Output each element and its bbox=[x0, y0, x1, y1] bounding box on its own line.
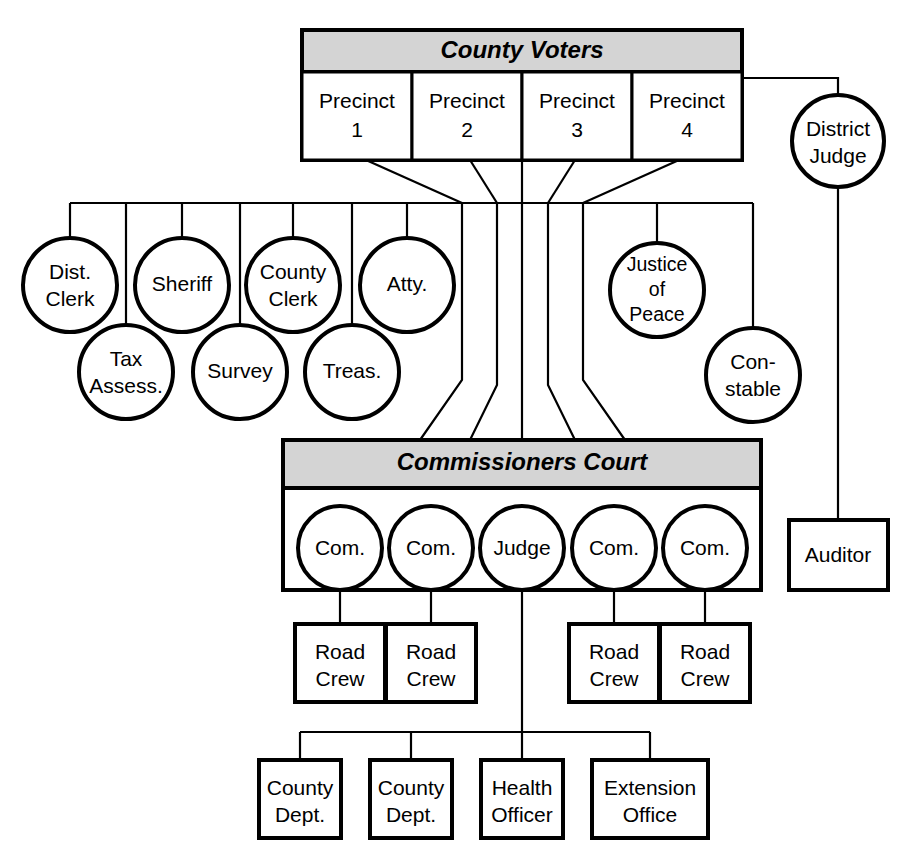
county-dept-1-line1: County bbox=[267, 776, 334, 799]
constable-line1: Con- bbox=[730, 350, 776, 373]
precinct-cell-1[interactable] bbox=[302, 72, 412, 160]
road-crew-3-line1: Road bbox=[589, 640, 639, 663]
sheriff-line1: Sheriff bbox=[152, 272, 212, 295]
connector-com5-to-court bbox=[583, 203, 625, 440]
county-dept-1-node[interactable]: County Dept. bbox=[259, 760, 341, 838]
org-chart-svg: County Voters Precinct 1 Precinct 2 Prec… bbox=[0, 0, 901, 861]
connector-precinct4-fan bbox=[583, 160, 679, 203]
county-judge-label: Judge bbox=[493, 536, 550, 559]
road-crew-1-line2: Crew bbox=[315, 667, 365, 690]
justice-of-peace-line3: Peace bbox=[629, 303, 684, 325]
commissioners-court-banner-label: Commissioners Court bbox=[397, 448, 649, 475]
treasurer-line1: Treas. bbox=[323, 359, 382, 382]
precinct-4-line1: Precinct bbox=[649, 89, 725, 112]
connector-com2-to-court bbox=[470, 203, 497, 440]
district-judge-line2: Judge bbox=[809, 144, 866, 167]
county-dept-2-line2: Dept. bbox=[386, 803, 436, 826]
district-judge-node[interactable]: District Judge bbox=[792, 95, 884, 187]
county-clerk-line2: Clerk bbox=[268, 287, 318, 310]
county-clerk-node[interactable]: County Clerk bbox=[246, 238, 340, 332]
dist-clerk-node[interactable]: Dist. Clerk bbox=[23, 238, 117, 332]
constable-node[interactable]: Con- stable bbox=[706, 328, 800, 422]
health-officer-node[interactable]: Health Officer bbox=[481, 760, 563, 838]
commissioners-court-group[interactable]: Commissioners Court Com. Com. Judge Com.… bbox=[283, 440, 761, 590]
connector-precinct2-fan bbox=[470, 160, 497, 203]
extension-office-node[interactable]: Extension Office bbox=[592, 760, 708, 838]
road-crew-3-node[interactable]: Road Crew bbox=[569, 624, 659, 702]
justice-of-peace-line2: of bbox=[649, 278, 666, 300]
commissioner-4-label: Com. bbox=[589, 536, 639, 559]
commissioner-2-label: Com. bbox=[406, 536, 456, 559]
org-chart-canvas: County Voters Precinct 1 Precinct 2 Prec… bbox=[0, 0, 901, 861]
sheriff-node[interactable]: Sheriff bbox=[135, 238, 229, 332]
road-crew-3-line2: Crew bbox=[589, 667, 639, 690]
district-judge-circle[interactable] bbox=[792, 95, 884, 187]
road-crew-1-node[interactable]: Road Crew bbox=[295, 624, 385, 702]
atty-line1: Atty. bbox=[387, 272, 427, 295]
road-crew-3-box[interactable] bbox=[569, 624, 659, 702]
county-voters-banner-label: County Voters bbox=[440, 36, 603, 63]
connector-precinct1-fan bbox=[366, 160, 462, 203]
precinct-2-line2: 2 bbox=[461, 118, 473, 141]
precinct-1-line1: Precinct bbox=[319, 89, 395, 112]
constable-line2: stable bbox=[725, 377, 781, 400]
road-crew-4-line2: Crew bbox=[680, 667, 730, 690]
justice-of-peace-node[interactable]: Justice of Peace bbox=[610, 243, 704, 337]
health-officer-box[interactable] bbox=[481, 760, 563, 838]
survey-line1: Survey bbox=[207, 359, 273, 382]
county-voters-group[interactable]: County Voters Precinct 1 Precinct 2 Prec… bbox=[302, 30, 742, 160]
tax-assessor-line2: Assess. bbox=[89, 374, 163, 397]
county-dept-2-line1: County bbox=[378, 776, 445, 799]
road-crew-1-line1: Road bbox=[315, 640, 365, 663]
precinct-cell-2[interactable] bbox=[412, 72, 522, 160]
auditor-node[interactable]: Auditor bbox=[789, 520, 888, 590]
health-officer-line1: Health bbox=[492, 776, 553, 799]
county-dept-1-box[interactable] bbox=[259, 760, 341, 838]
county-clerk-circle[interactable] bbox=[246, 238, 340, 332]
precinct-1-line2: 1 bbox=[351, 118, 363, 141]
extension-office-box[interactable] bbox=[592, 760, 708, 838]
precinct-3-line1: Precinct bbox=[539, 89, 615, 112]
precinct-cell-4[interactable] bbox=[632, 72, 742, 160]
road-crew-2-line1: Road bbox=[406, 640, 456, 663]
dist-clerk-line2: Clerk bbox=[45, 287, 95, 310]
county-dept-2-box[interactable] bbox=[370, 760, 452, 838]
dist-clerk-line1: Dist. bbox=[49, 260, 91, 283]
connector-precinct3-fan bbox=[548, 160, 575, 203]
tax-assessor-line1: Tax bbox=[110, 347, 143, 370]
auditor-label: Auditor bbox=[805, 543, 872, 566]
road-crew-4-line1: Road bbox=[680, 640, 730, 663]
commissioner-1-label: Com. bbox=[315, 536, 365, 559]
county-clerk-line1: County bbox=[260, 260, 327, 283]
connector-com4-to-court bbox=[548, 203, 575, 440]
precinct-4-line2: 4 bbox=[681, 118, 693, 141]
dist-clerk-circle[interactable] bbox=[23, 238, 117, 332]
constable-circle[interactable] bbox=[706, 328, 800, 422]
extension-office-line1: Extension bbox=[604, 776, 696, 799]
precinct-3-line2: 3 bbox=[571, 118, 583, 141]
connector-voters-to-district-judge bbox=[742, 78, 838, 96]
survey-node[interactable]: Survey bbox=[193, 325, 287, 419]
tax-assessor-circle[interactable] bbox=[79, 325, 173, 419]
precinct-2-line1: Precinct bbox=[429, 89, 505, 112]
treasurer-node[interactable]: Treas. bbox=[305, 325, 399, 419]
road-crew-2-node[interactable]: Road Crew bbox=[386, 624, 476, 702]
commissioner-5-label: Com. bbox=[680, 536, 730, 559]
road-crew-4-box[interactable] bbox=[660, 624, 750, 702]
road-crew-4-node[interactable]: Road Crew bbox=[660, 624, 750, 702]
district-judge-line1: District bbox=[806, 117, 870, 140]
justice-of-peace-line1: Justice bbox=[627, 253, 688, 275]
road-crew-2-line2: Crew bbox=[406, 667, 456, 690]
county-dept-2-node[interactable]: County Dept. bbox=[370, 760, 452, 838]
road-crew-2-box[interactable] bbox=[386, 624, 476, 702]
precinct-cell-3[interactable] bbox=[522, 72, 632, 160]
county-dept-1-line2: Dept. bbox=[275, 803, 325, 826]
road-crew-1-box[interactable] bbox=[295, 624, 385, 702]
health-officer-line2: Officer bbox=[491, 803, 552, 826]
extension-office-line2: Office bbox=[623, 803, 677, 826]
atty-node[interactable]: Atty. bbox=[360, 238, 454, 332]
tax-assessor-node[interactable]: Tax Assess. bbox=[79, 325, 173, 419]
